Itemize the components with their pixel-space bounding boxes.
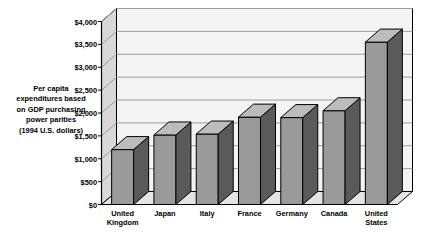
x-axis-tick-label: Japan: [154, 209, 175, 219]
x-axis-tick-label: Canada: [321, 209, 348, 219]
x-axis-tick-label-line: Italy: [200, 209, 215, 219]
x-axis-tick-label: UnitedStates: [365, 209, 388, 228]
x-axis-tick-label: UnitedKingdom: [107, 209, 139, 228]
bar-chart: Per capita expenditures based on GDP pur…: [0, 0, 424, 236]
x-axis-tick-label-line: United: [365, 209, 388, 219]
x-axis-tick-label-line: Kingdom: [107, 218, 139, 228]
x-axis-tick-label-line: Japan: [154, 209, 175, 219]
x-axis-tick-label-line: States: [365, 218, 388, 228]
x-axis-tick-label: France: [237, 209, 261, 219]
x-axis-tick-label: Germany: [276, 209, 308, 219]
x-axis-tick-labels: UnitedKingdomJapanItalyFranceGermanyCana…: [0, 0, 424, 236]
x-axis-tick-label-line: France: [237, 209, 261, 219]
x-axis-tick-label-line: Canada: [321, 209, 348, 219]
x-axis-tick-label-line: United: [107, 209, 139, 219]
x-axis-tick-label-line: Germany: [276, 209, 308, 219]
x-axis-tick-label: Italy: [200, 209, 215, 219]
